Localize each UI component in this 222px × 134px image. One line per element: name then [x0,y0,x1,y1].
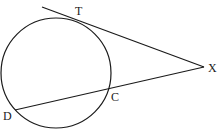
circle [1,18,111,128]
tangent-line-xt [42,7,204,67]
point-label-t: T [75,5,82,17]
secant-line-xd [15,67,204,110]
geometry-diagram: T X C D [0,0,222,134]
point-label-c: C [111,91,119,103]
point-label-d: D [3,110,12,122]
point-label-x: X [208,62,217,74]
diagram-canvas [0,0,222,134]
